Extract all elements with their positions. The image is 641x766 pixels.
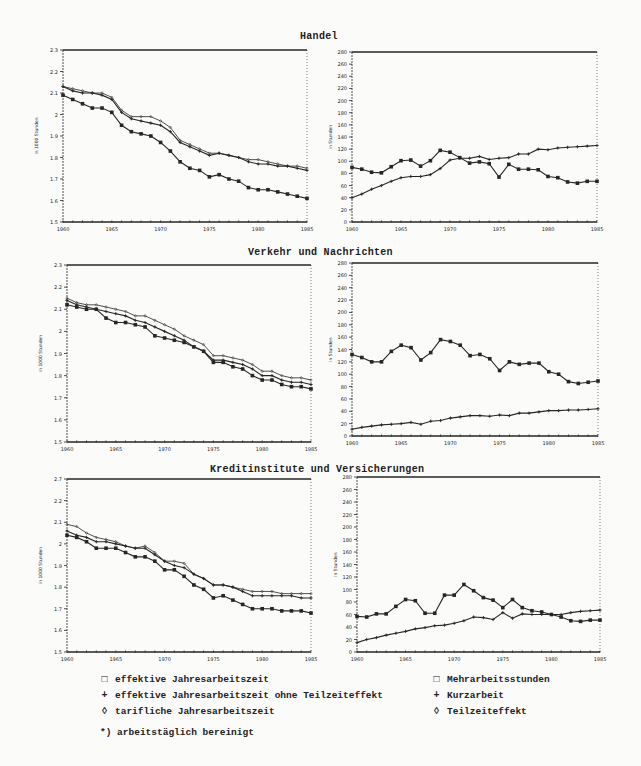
y-axis-label: in Stunden [328, 125, 333, 149]
y-tick-label: 2 [55, 112, 58, 118]
y-tick-label: 1.6 [54, 417, 62, 423]
y-tick-label: 80 [341, 384, 347, 390]
y-tick-label: 2.1 [54, 519, 62, 525]
y-tick-label: 2.2 [54, 284, 62, 290]
x-tick-label: 1960 [346, 440, 359, 446]
y-tick-label: 80 [341, 170, 347, 176]
x-tick-label: 1985 [594, 656, 607, 662]
chart-kreditinstitute-und-versicherungen-right: 0204060801001201401601802002202402602801… [333, 474, 606, 662]
series-line [357, 585, 600, 622]
legend-item-ohne-teilzeit: + effektive Jahresarbeitszeit ohne Teilz… [100, 690, 383, 701]
plus-marker-icon: + [100, 690, 109, 701]
y-tick-label: 240 [337, 285, 347, 291]
x-tick-label: 1965 [109, 656, 122, 662]
series-line [63, 87, 307, 171]
chart-verkehr-und-nachrichten-right: 0204060801001201401601802002202402602801… [328, 260, 604, 446]
x-tick-label: 1970 [158, 446, 171, 452]
y-tick-label: 1.5 [54, 649, 62, 655]
y-tick-label: 20 [341, 207, 347, 213]
series-line [352, 150, 597, 183]
x-tick-label: 1975 [207, 446, 220, 452]
series-line [67, 524, 311, 593]
series-line [352, 409, 598, 429]
x-tick-label: 1970 [154, 226, 167, 232]
diamond-marker-icon: ◊ [432, 706, 441, 717]
y-tick-label: 1.8 [54, 584, 62, 590]
y-tick-label: 280 [342, 474, 352, 480]
x-tick-label: 1980 [256, 656, 269, 662]
y-tick-label: 200 [337, 309, 347, 315]
y-tick-label: 1.7 [54, 395, 62, 401]
y-tick-label: 1.6 [54, 627, 62, 633]
x-tick-label: 1960 [61, 656, 74, 662]
series-line [67, 535, 311, 613]
y-tick-label: 120 [337, 359, 347, 365]
y-tick-label: 2.1 [54, 306, 62, 312]
y-tick-label: 140 [342, 562, 352, 568]
y-tick-label: 20 [341, 421, 347, 427]
y-tick-label: 1.7 [54, 606, 62, 612]
chart-kreditinstitute-und-versicherungen-left: 1.51.61.71.81.922.12.22.7196019651970197… [38, 476, 317, 662]
legend-label: effektive Jahresarbeitszeit [115, 674, 269, 685]
y-tick-label: 2.3 [54, 262, 62, 268]
y-tick-label: 280 [337, 49, 347, 55]
y-tick-label: 160 [337, 122, 347, 128]
legend-label: Mehrarbeitsstunden [447, 674, 550, 685]
x-tick-label: 1980 [545, 656, 558, 662]
y-tick-label: 0 [344, 219, 347, 225]
legend-item-mehrarbeit: □ Mehrarbeitsstunden [432, 674, 550, 685]
legend-item-tariflich: ◊ tarifliche Jahresarbeitszeit [100, 706, 275, 717]
legend-item-kurzarbeit: + Kurzarbeit [432, 690, 504, 701]
y-tick-label: 140 [337, 134, 347, 140]
x-tick-label: 1960 [351, 656, 364, 662]
y-tick-label: 60 [341, 396, 347, 402]
y-tick-label: 40 [346, 624, 352, 630]
y-tick-label: 120 [337, 146, 347, 152]
legend-item-teilzeit: ◊ Teilzeiteffekt [432, 706, 527, 717]
y-tick-label: 40 [341, 195, 347, 201]
y-tick-label: 200 [342, 524, 352, 530]
x-tick-label: 1970 [158, 656, 171, 662]
chart-handel-right: 0204060801001201401601802002202402602801… [328, 49, 603, 232]
y-tick-label: 220 [342, 512, 352, 518]
y-tick-label: 0 [349, 649, 352, 655]
y-tick-label: 2 [59, 328, 62, 334]
y-tick-label: 2.7 [54, 476, 62, 482]
y-tick-label: 2.3 [50, 47, 58, 53]
x-tick-label: 1985 [301, 226, 314, 232]
x-tick-label: 1960 [346, 226, 359, 232]
y-tick-label: 1.9 [54, 351, 62, 357]
x-tick-label: 1960 [61, 446, 74, 452]
legend-footnote: *) arbeitstäglich bereinigt [100, 727, 254, 738]
plus-marker-icon: + [432, 690, 441, 701]
y-tick-label: 2.2 [54, 498, 62, 504]
x-tick-label: 1965 [105, 226, 118, 232]
y-tick-label: 20 [346, 637, 352, 643]
y-tick-label: 220 [337, 85, 347, 91]
x-tick-label: 1970 [448, 656, 461, 662]
y-tick-label: 1.7 [50, 176, 58, 182]
y-tick-label: 1.9 [50, 133, 58, 139]
x-tick-label: 1960 [57, 226, 70, 232]
y-tick-label: 1.6 [50, 198, 58, 204]
y-tick-label: 40 [341, 408, 347, 414]
series-line [67, 531, 311, 598]
y-tick-label: 240 [342, 499, 352, 505]
x-tick-label: 1985 [592, 440, 605, 446]
y-tick-label: 280 [337, 260, 347, 266]
diamond-marker-icon: ◊ [100, 706, 109, 717]
y-tick-label: 60 [346, 612, 352, 618]
x-tick-label: 1975 [207, 656, 220, 662]
y-axis-label: in 1000 Stunden [38, 335, 43, 372]
legend-item-effektive: □ effektive Jahresarbeitszeit [100, 674, 269, 685]
y-tick-label: 160 [342, 549, 352, 555]
square-marker-icon: □ [432, 674, 441, 685]
y-tick-label: 260 [337, 272, 347, 278]
x-tick-label: 1985 [591, 226, 604, 232]
x-tick-label: 1975 [203, 226, 216, 232]
square-marker-icon: □ [100, 674, 109, 685]
y-axis-label: in Stunden [328, 337, 333, 361]
y-tick-label: 120 [342, 574, 352, 580]
legend-label: tarifliche Jahresarbeitszeit [115, 706, 275, 717]
y-tick-label: 140 [337, 347, 347, 353]
